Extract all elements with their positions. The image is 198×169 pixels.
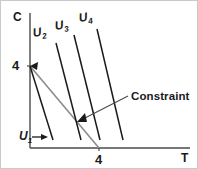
indifference-curve-u3	[74, 35, 100, 140]
axis-group	[30, 13, 190, 148]
y-axis-label: C	[13, 11, 22, 23]
curve-label-u1-subscript: 1	[28, 136, 32, 145]
indifference-curves-group	[30, 29, 123, 140]
u1-arrowhead	[41, 134, 48, 140]
constraint-annotation-label: Constraint	[131, 91, 190, 103]
indifference-curve-u4	[97, 29, 123, 140]
x-axis-tick-label-4: 4	[95, 153, 102, 166]
tick-marks-group	[27, 66, 99, 151]
x-axis-label: T	[181, 152, 188, 164]
figure-canvas: C T 4 4 U1 U2 U3 U4 Constraint	[0, 0, 198, 169]
curve-label-u4: U4	[78, 10, 94, 27]
curve-label-u1: U1	[19, 130, 32, 145]
curve-label-u3: U3	[54, 18, 70, 35]
indifference-curve-u1	[30, 66, 53, 140]
curve-label-u2: U2	[32, 25, 48, 42]
indifference-curve-u2	[56, 43, 81, 140]
curve-label-u1-text: U	[19, 129, 28, 143]
y-axis-tick-label-4: 4	[12, 59, 19, 72]
constraint-arrowhead	[77, 113, 87, 122]
